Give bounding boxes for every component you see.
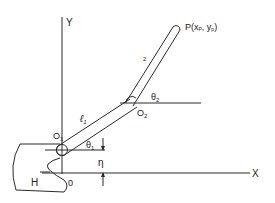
- theta2-label: θ2: [151, 92, 160, 103]
- x-axis-label: X: [252, 168, 259, 179]
- eta-label: η: [98, 157, 104, 168]
- origin-label: 0: [68, 178, 73, 188]
- link-1: [56, 99, 137, 156]
- y-axis-label: Y: [66, 17, 73, 28]
- endpoint-label: P(xP, yp): [185, 22, 217, 32]
- theta1-label: θ1: [86, 140, 95, 151]
- link-2-label: 2: [143, 56, 147, 62]
- kinematic-diagram: Y X 0 H O1 O2 ℓ1 2 θ1 θ2 η P(xP, yp): [0, 0, 275, 203]
- link-1-label: ℓ1: [79, 113, 87, 125]
- o2-label: O2: [137, 108, 148, 119]
- body-outline: [13, 144, 67, 192]
- body-label: H: [31, 177, 38, 188]
